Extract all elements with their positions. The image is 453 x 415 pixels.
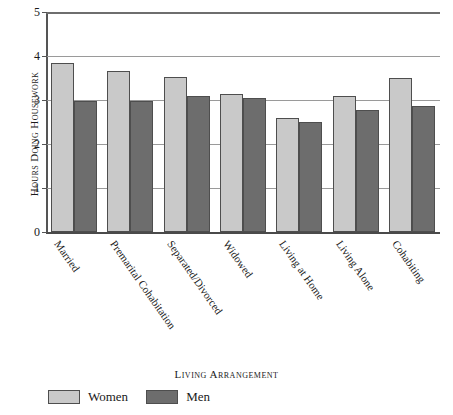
x-category-label-living-at-home: Living at Home (277, 238, 327, 302)
bar-men-married (74, 101, 97, 232)
housework-bar-chart: Hours Doing Housework 012345 MarriedPrem… (0, 0, 453, 415)
plot-area: 012345 (46, 12, 440, 232)
x-category-label-living-alone: Living Alone (334, 238, 377, 293)
y-tick-label-3: 3 (34, 94, 40, 106)
y-tick-label-5: 5 (34, 6, 40, 18)
bars-layer (46, 12, 440, 232)
bar-men-widowed (243, 98, 266, 232)
bar-women-living-alone (333, 96, 356, 232)
bar-women-living-at-home (276, 118, 299, 232)
x-category-label-married: Married (52, 238, 82, 274)
x-category-label-premarital-cohabitation: Premarital Cohabitation (109, 238, 179, 331)
legend-label-men: Men (186, 389, 210, 405)
bar-men-separated-divorced (187, 96, 210, 232)
y-tick-label-0: 0 (34, 226, 40, 238)
category-labels: MarriedPremarital CohabitationSeparated/… (46, 234, 440, 364)
y-axis-title: Hours Doing Housework (28, 44, 40, 224)
x-category-label-widowed: Widowed (221, 238, 255, 280)
bar-men-premarital-cohabitation (130, 101, 153, 232)
y-tick-label-4: 4 (34, 50, 40, 62)
bar-women-married (51, 63, 74, 232)
legend-label-women: Women (88, 389, 128, 405)
legend-swatch-men (146, 390, 178, 404)
legend-swatch-women (48, 390, 80, 404)
bar-women-widowed (220, 94, 243, 232)
x-category-label-separated-divorced: Separated/Divorced (165, 238, 225, 316)
legend-item-men: Men (146, 389, 210, 405)
bar-men-cohabiting (412, 106, 435, 232)
y-tick-label-2: 2 (34, 138, 40, 150)
bar-women-premarital-cohabitation (107, 71, 130, 232)
y-tick-label-1: 1 (34, 182, 40, 194)
chart-legend: WomenMen (48, 389, 210, 405)
x-axis-title: Living Arrangement (0, 368, 453, 380)
bar-men-living-alone (356, 110, 379, 232)
bar-women-separated-divorced (164, 77, 187, 232)
legend-item-women: Women (48, 389, 128, 405)
y-tick-mark-0 (42, 232, 47, 233)
x-category-label-cohabiting: Cohabiting (390, 238, 428, 285)
bar-men-living-at-home (299, 122, 322, 232)
bar-women-cohabiting (389, 78, 412, 232)
